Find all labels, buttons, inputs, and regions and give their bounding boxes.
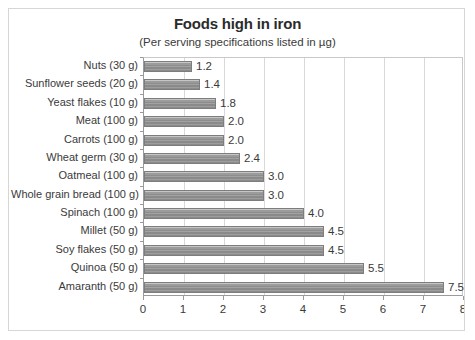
bar-row: 3.0 (144, 168, 462, 186)
x-axis-tick (383, 296, 384, 300)
x-axis-tick-label: 6 (371, 302, 395, 316)
bar (144, 190, 264, 201)
category-label: Soy flakes (50 g) (11, 242, 143, 256)
x-axis-tick (303, 296, 304, 300)
bar-row: 2.4 (144, 150, 462, 168)
bar-value-label: 5.5 (368, 261, 384, 276)
bar-row: 4.5 (144, 223, 462, 241)
bar-row: 1.2 (144, 58, 462, 76)
x-axis-tick-label: 3 (251, 302, 275, 316)
category-label: Wheat germ (30 g) (11, 150, 143, 164)
bar-row: 3.0 (144, 187, 462, 205)
bar (144, 171, 264, 182)
bar-value-label: 1.2 (196, 59, 212, 74)
x-axis: 012345678 (143, 296, 463, 322)
bar (144, 135, 224, 146)
x-axis-tick-label: 2 (211, 302, 235, 316)
category-label: Carrots (100 g) (11, 132, 143, 146)
category-label: Spinach (100 g) (11, 205, 143, 219)
bar (144, 153, 240, 164)
bar-value-label: 1.4 (204, 77, 220, 92)
bar-value-label: 4.0 (308, 206, 324, 221)
title-block: Foods high in iron (Per serving specific… (9, 15, 465, 50)
bar-value-label: 3.0 (268, 188, 284, 203)
bar-row: 2.0 (144, 132, 462, 150)
x-axis-tick-label: 4 (291, 302, 315, 316)
x-axis-tick (263, 296, 264, 300)
category-label: Sunflower seeds (20 g) (11, 76, 143, 90)
bar (144, 208, 304, 219)
x-axis-tick (463, 296, 464, 300)
category-label: Whole grain bread (100 g) (11, 187, 143, 201)
bar-value-label: 3.0 (268, 169, 284, 184)
chart-subtitle: (Per serving specifications listed in µg… (9, 34, 465, 50)
bar-row: 1.8 (144, 95, 462, 113)
bar (144, 263, 364, 274)
bar (144, 282, 444, 293)
bar-value-label: 4.5 (328, 243, 344, 258)
x-axis-tick-label: 1 (171, 302, 195, 316)
bar (144, 226, 324, 237)
category-label: Amaranth (50 g) (11, 279, 143, 293)
chart-title: Foods high in iron (9, 15, 465, 33)
category-label: Quinoa (50 g) (11, 260, 143, 274)
x-axis-tick (143, 296, 144, 300)
bar-row: 5.5 (144, 260, 462, 278)
plot-area: 1.21.41.82.02.02.43.03.04.04.54.55.57.5 (143, 57, 463, 296)
bar (144, 98, 216, 109)
bar-row: 7.5 (144, 279, 462, 297)
bar (144, 61, 192, 72)
bar-row: 4.5 (144, 242, 462, 260)
bar-row: 2.0 (144, 113, 462, 131)
bar-row: 1.4 (144, 76, 462, 94)
bar-value-label: 2.0 (228, 114, 244, 129)
category-label: Nuts (30 g) (11, 58, 143, 72)
x-axis-tick-label: 5 (331, 302, 355, 316)
chart-frame: Foods high in iron (Per serving specific… (8, 8, 465, 331)
x-axis-tick (223, 296, 224, 300)
category-label: Millet (50 g) (11, 223, 143, 237)
bar-row: 4.0 (144, 205, 462, 223)
x-axis-tick (343, 296, 344, 300)
bar (144, 116, 224, 127)
bar (144, 79, 200, 90)
x-axis-tick-label: 7 (411, 302, 435, 316)
category-label: Meat (100 g) (11, 113, 143, 127)
x-axis-tick-label: 8 (451, 302, 465, 316)
x-axis-tick (183, 296, 184, 300)
bar-value-label: 1.8 (220, 96, 236, 111)
category-axis: Nuts (30 g)Sunflower seeds (20 g)Yeast f… (9, 57, 143, 296)
bar-value-label: 4.5 (328, 224, 344, 239)
category-label: Yeast flakes (10 g) (11, 95, 143, 109)
bar-value-label: 7.5 (448, 280, 464, 295)
x-axis-tick-label: 0 (131, 302, 155, 316)
bar (144, 245, 324, 256)
x-axis-tick (423, 296, 424, 300)
bar-value-label: 2.4 (244, 151, 260, 166)
category-label: Oatmeal (100 g) (11, 168, 143, 182)
bar-value-label: 2.0 (228, 133, 244, 148)
